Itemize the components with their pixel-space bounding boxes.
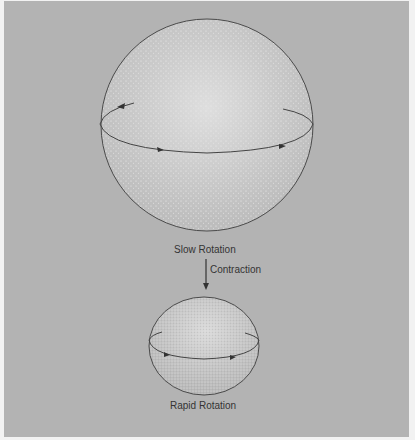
rapid-rotation-sphere	[149, 297, 259, 395]
slow-rotation-sphere	[100, 19, 313, 231]
contraction-label: Contraction	[210, 264, 261, 275]
rapid-rotation-label: Rapid Rotation	[170, 400, 236, 411]
slow-rotation-label: Slow Rotation	[174, 244, 236, 255]
contraction-arrow-icon	[203, 259, 209, 290]
rotation-diagram	[0, 0, 415, 440]
